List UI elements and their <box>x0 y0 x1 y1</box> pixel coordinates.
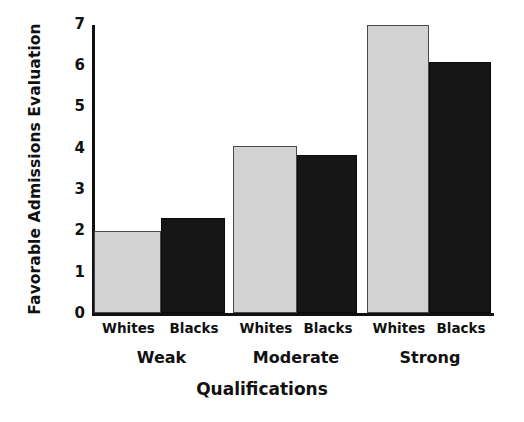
x-axis-title: Qualifications <box>0 379 524 399</box>
y-tick-label-7: 7 <box>51 17 85 32</box>
series-label-weak-whites: Whites <box>94 320 163 336</box>
series-label-strong-blacks: Blacks <box>429 320 493 336</box>
y-tick-label-2: 2 <box>51 223 85 238</box>
bar-strong-blacks <box>429 62 491 313</box>
bar-strong-whites <box>367 25 429 313</box>
bar-weak-blacks <box>161 218 225 313</box>
y-axis-title: Favorable Admissions Evaluation <box>26 19 44 319</box>
y-tick-label-0: 0 <box>51 306 85 321</box>
series-label-moderate-blacks: Blacks <box>297 320 359 336</box>
bar-moderate-whites <box>233 146 297 313</box>
bar-chart-figure: Favorable Admissions Evaluation 7 6 5 4 … <box>0 0 524 422</box>
series-label-strong-whites: Whites <box>367 320 431 336</box>
y-tick-label-4: 4 <box>51 141 85 156</box>
y-tick-label-3: 3 <box>51 182 85 197</box>
group-label-strong: Strong <box>366 348 494 367</box>
group-label-weak: Weak <box>94 348 229 367</box>
group-label-moderate: Moderate <box>232 348 360 367</box>
bar-moderate-blacks <box>297 155 357 313</box>
y-tick-label-5: 5 <box>51 99 85 114</box>
bar-weak-whites <box>94 231 161 313</box>
y-tick-label-1: 1 <box>51 265 85 280</box>
y-tick-label-6: 6 <box>51 58 85 73</box>
series-label-weak-blacks: Blacks <box>161 320 227 336</box>
series-label-moderate-whites: Whites <box>233 320 299 336</box>
plot-area: 7 6 5 4 3 2 1 0 <box>92 25 494 316</box>
x-axis-line <box>92 313 494 316</box>
